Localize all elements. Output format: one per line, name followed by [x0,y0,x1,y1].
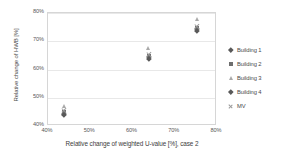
x-tick-label: 50% [76,127,102,133]
y-axis-title: Relative change of HWB [%] [13,10,19,120]
plot-area [47,12,216,125]
square-marker-icon [228,61,234,67]
legend-item-building-4[interactable]: Building 4 [228,85,286,99]
x-marker-icon [228,103,234,109]
scatter-chart-figure: Relative change of HWB [%] 40%50%60%70%8… [0,0,289,158]
legend-item-label: Building 4 [237,89,261,95]
legend-item-label: Building 3 [237,75,261,81]
legend-item-label: MV [237,103,246,109]
diamond-marker-icon [228,89,234,95]
chart-legend: Building 1Building 2Building 3Building 4… [228,43,286,113]
x-tick-label: 70% [161,127,187,133]
legend-item-building-2[interactable]: Building 2 [228,57,286,71]
diamond-marker-icon [228,47,234,53]
data-point [146,51,152,57]
data-point [194,28,200,34]
legend-item-mv[interactable]: MV [228,99,286,113]
data-point [194,23,200,29]
legend-item-building-1[interactable]: Building 1 [228,43,286,57]
legend-item-building-3[interactable]: Building 3 [228,71,286,85]
y-tick-label: 50% [22,93,44,99]
gridline [48,70,215,71]
y-tick-label: 80% [22,8,44,14]
legend-item-label: Building 2 [237,61,261,67]
data-point [194,16,200,22]
y-tick-label: 60% [22,65,44,71]
x-tick-label: 80% [203,127,229,133]
gridline [48,98,215,99]
y-tick-label: 70% [22,36,44,42]
x-tick-label: 40% [34,127,60,133]
x-axis-title: Relative change of weighted U-value [%],… [26,140,238,147]
data-point [61,108,67,114]
x-tick-label: 60% [119,127,145,133]
legend-item-label: Building 1 [237,47,261,53]
data-point [146,45,152,51]
gridline [48,41,215,42]
gridline [48,13,215,14]
triangle-marker-icon [228,75,234,81]
